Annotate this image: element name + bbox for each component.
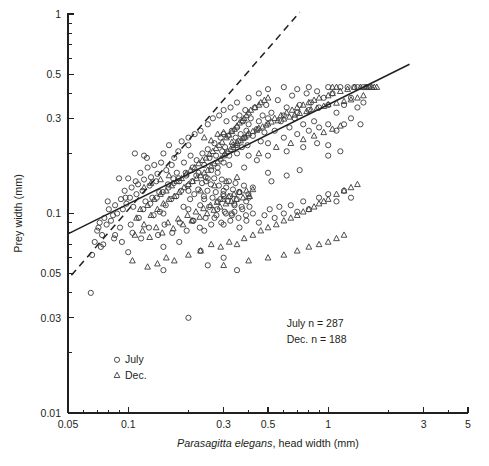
data-point-triangle <box>355 181 361 186</box>
data-point-circle <box>210 116 215 121</box>
data-point-circle <box>108 218 113 223</box>
data-point-circle <box>250 211 255 216</box>
data-point-circle <box>221 107 226 112</box>
data-point-circle <box>301 145 306 150</box>
data-point-circle <box>126 176 131 181</box>
data-point-triangle <box>155 261 161 266</box>
data-point-circle <box>256 119 261 124</box>
data-point-triangle <box>281 218 287 223</box>
data-point-circle <box>228 105 233 110</box>
data-point-circle <box>265 141 270 146</box>
data-point-triangle <box>208 137 214 142</box>
data-point-circle <box>265 87 270 92</box>
data-point-circle <box>215 170 220 175</box>
data-point-circle <box>301 199 306 204</box>
data-point-triangle <box>284 110 290 115</box>
data-point-circle <box>241 183 246 188</box>
data-point-triangle <box>334 235 340 240</box>
data-point-circle <box>316 125 321 130</box>
y-tick-label: 0.01 <box>41 407 62 419</box>
data-point-circle <box>186 315 191 320</box>
data-point-circle <box>288 203 293 208</box>
data-point-circle <box>131 204 136 209</box>
data-point-triangle <box>193 209 199 214</box>
data-point-triangle <box>334 191 340 196</box>
data-point-triangle <box>288 140 294 145</box>
data-point-circle <box>105 199 110 204</box>
y-tick-label: 0.03 <box>41 312 62 324</box>
data-point-circle <box>272 215 277 220</box>
data-point-circle <box>210 195 215 200</box>
data-point-circle <box>228 218 233 223</box>
data-point-circle <box>200 151 205 156</box>
data-point-circle <box>254 158 259 163</box>
data-point-circle <box>361 100 366 105</box>
data-point-triangle <box>130 258 136 263</box>
data-point-circle <box>139 236 144 241</box>
data-point-triangle <box>341 232 347 237</box>
data-point-circle <box>145 165 150 170</box>
data-point-triangle <box>306 244 312 249</box>
y-tick-label: 1 <box>55 8 61 20</box>
y-tick-label: 0.3 <box>46 112 61 124</box>
data-point-triangle <box>325 239 331 244</box>
y-tick-label: 0.5 <box>46 68 61 80</box>
data-point-circle <box>219 177 224 182</box>
data-point-circle <box>246 95 251 100</box>
data-point-circle <box>96 225 101 230</box>
data-point-triangle <box>234 174 240 179</box>
annotations-layer: July n = 287Dec. n = 188 <box>287 317 347 345</box>
scatter-plot: 0.050.10.30.51350.010.030.050.10.30.51 P… <box>0 0 489 466</box>
data-point-circle <box>338 149 343 154</box>
data-point-circle <box>234 268 239 273</box>
data-point-circle <box>184 228 189 233</box>
data-point-circle <box>315 89 320 94</box>
data-point-circle <box>301 122 306 127</box>
data-point-circle <box>295 87 300 92</box>
data-point-circle <box>138 170 143 175</box>
data-point-circle <box>306 85 311 90</box>
data-point-triangle <box>311 133 317 138</box>
data-point-circle <box>256 220 261 225</box>
data-point-circle <box>355 105 360 110</box>
data-point-circle <box>306 128 311 133</box>
data-point-triangle <box>355 95 361 100</box>
data-point-circle <box>232 116 237 121</box>
data-point-circle <box>92 239 97 244</box>
data-point-triangle <box>246 258 252 263</box>
legend-marker-triangle <box>114 372 120 377</box>
y-tick-label: 0.05 <box>41 267 62 279</box>
data-point-triangle <box>361 92 367 97</box>
data-point-circle <box>237 113 242 118</box>
data-point-triangle <box>311 204 317 209</box>
data-point-circle <box>267 207 272 212</box>
data-point-circle <box>348 195 353 200</box>
y-tick-label: 0.1 <box>46 207 61 219</box>
data-point-triangle <box>158 176 164 181</box>
data-point-circle <box>265 153 270 158</box>
data-point-circle <box>348 116 353 121</box>
data-point-circle <box>152 162 157 167</box>
data-point-triangle <box>197 214 203 219</box>
legend-label-dec: Dec. <box>125 369 147 381</box>
data-point-circle <box>234 100 239 105</box>
data-point-triangle <box>337 123 343 128</box>
data-point-circle <box>269 179 274 184</box>
figure-container: 0.050.10.30.51350.010.030.050.10.30.51 P… <box>0 0 489 466</box>
data-point-circle <box>233 135 238 140</box>
data-point-circle <box>242 165 247 170</box>
data-point-triangle <box>145 264 151 269</box>
data-point-circle <box>146 225 151 230</box>
data-point-triangle <box>321 129 327 134</box>
y-axis-title: Prey width (mm) <box>12 174 24 253</box>
data-point-circle <box>277 204 282 209</box>
data-point-triangle <box>258 228 264 233</box>
x-axis-title-species: Parasagitta elegans <box>177 437 273 449</box>
data-point-circle <box>275 98 280 103</box>
data-point-circle <box>284 149 289 154</box>
data-point-circle <box>221 255 226 260</box>
data-point-circle <box>209 222 214 227</box>
data-point-circle <box>262 213 267 218</box>
data-point-triangle <box>294 104 300 109</box>
legend-layer: JulyDec. <box>114 353 146 381</box>
